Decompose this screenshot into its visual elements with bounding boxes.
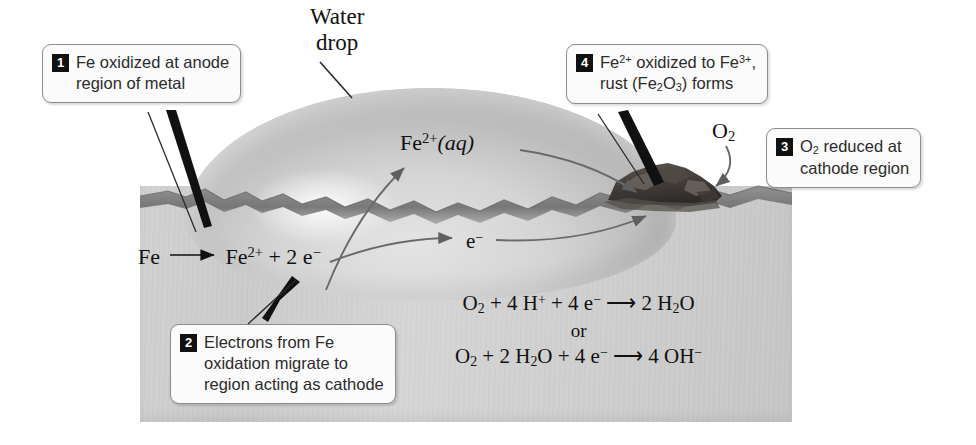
fe2-state: (aq) [437,130,474,155]
electron-base: e [466,229,475,253]
callout-4-line-1: Fe2+ oxidized to Fe3+, [600,52,756,73]
callout-4-line-2: rust (Fe2O3) forms [600,73,756,95]
o2-to-cathode-arrow [716,146,730,186]
electron-label: e− [466,229,483,254]
callout-2-badge: 2 [180,334,197,352]
callout-2-line-3: region acting as cathode [204,374,384,395]
cathode-or-separator: or [455,318,702,343]
water-drop-label-line2: drop [316,30,358,55]
callout-1-badge: 1 [52,54,69,72]
anode-half-reaction: Fe Fe2+ + 2 e− [138,244,321,270]
callout-2-electrons[interactable]: 2 Electrons from Fe oxidation migrate to… [170,324,396,404]
callout-1-line-2: region of metal [76,73,229,94]
callout-3-badge: 3 [776,138,793,156]
o2-base: O [712,118,728,143]
diagram-canvas: Water drop Fe2+(aq) O2 e− Fe Fe2+ + 2 e−… [0,0,976,445]
electron-sup: − [475,230,483,245]
callout-3-cathode[interactable]: 3 O2 reduced at cathode region [766,128,921,188]
callout-3-line-2: cathode region [800,158,909,179]
cathode-half-reactions: O2 + 4 H+ + 4 e− ⟶ 2 H2O or O2 + 2 H2O +… [455,290,702,372]
callout-4-rust[interactable]: 4 Fe2+ oxidized to Fe3+, rust (Fe2O3) fo… [566,44,768,104]
cathode-reaction-1: O2 + 4 H+ + 4 e− ⟶ 2 H2O [455,290,702,318]
water-drop-label: Water drop [310,4,364,57]
water-drop-label-line1: Water [310,4,364,29]
fe2-aq-label: Fe2+(aq) [400,130,474,156]
callout-3-line-1: O2 reduced at [800,136,909,158]
callout-1-line-1: Fe oxidized at anode [76,52,229,73]
fe2-base: Fe [400,130,422,155]
fe2-charge: 2+ [422,130,437,146]
water-drop-leader [320,62,352,98]
cathode-reaction-2: O2 + 2 H2O + 4 e− ⟶ 4 OH− [455,343,702,371]
callout-2-line-1: Electrons from Fe [204,332,384,353]
anode-reactant: Fe [138,244,160,269]
callout-2-line-2: oxidation migrate to [204,353,384,374]
callout-1-anode[interactable]: 1 Fe oxidized at anode region of metal [42,44,241,103]
anode-product: Fe2+ + 2 e− [226,244,321,269]
o2-sub: 2 [728,128,735,144]
callout-4-badge: 4 [576,54,593,72]
o2-label: O2 [712,118,735,145]
